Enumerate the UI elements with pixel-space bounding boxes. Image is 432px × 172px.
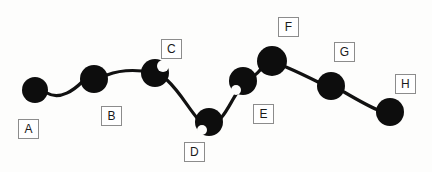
- node-a[interactable]: [22, 77, 48, 103]
- node-h[interactable]: [376, 98, 404, 126]
- edge-g-h: [344, 92, 378, 110]
- edge-c-d: [167, 80, 198, 119]
- node-label-a: A: [18, 119, 39, 139]
- node-label-f: F: [278, 17, 299, 37]
- node-g[interactable]: [317, 72, 345, 100]
- node-label-g: G: [334, 42, 355, 62]
- node-label-h: H: [395, 74, 416, 94]
- node-e-notch: [231, 85, 241, 95]
- edge-f-g: [286, 67, 320, 83]
- diagram-canvas: ABCDEFGH: [0, 0, 432, 172]
- node-label-e: E: [253, 104, 274, 124]
- node-c-notch: [157, 60, 169, 72]
- edge-a-b: [47, 82, 82, 96]
- edge-b-c: [107, 70, 142, 75]
- edge-d-e: [221, 93, 237, 118]
- node-label-d: D: [184, 142, 205, 162]
- node-label-b: B: [101, 106, 122, 126]
- node-f[interactable]: [257, 46, 287, 76]
- node-label-c: C: [161, 39, 182, 59]
- graph-svg: [0, 0, 432, 172]
- node-d-notch: [197, 125, 207, 135]
- node-b[interactable]: [80, 65, 108, 93]
